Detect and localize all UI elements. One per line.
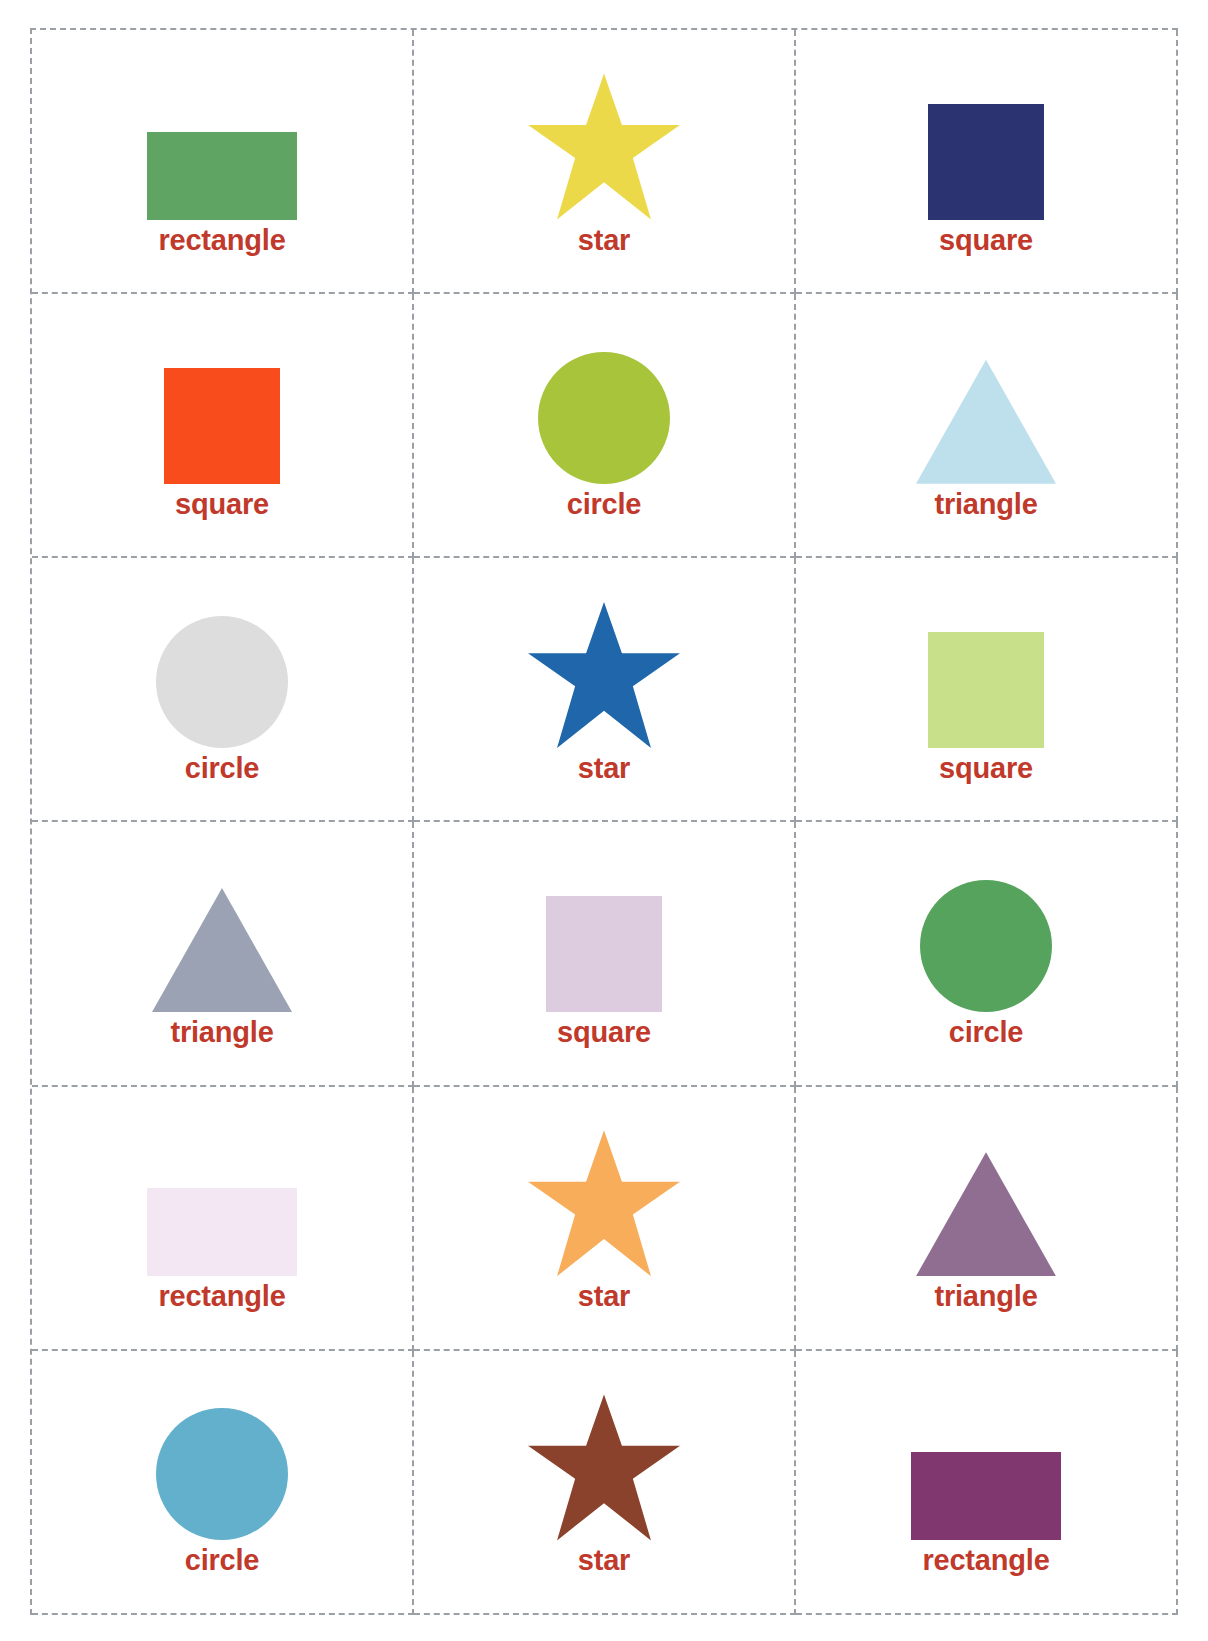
shape-label: star [578,754,630,783]
shape-label: triangle [170,1018,273,1047]
shape-slot [414,332,794,484]
shape-slot [32,596,412,748]
shape-label: star [578,226,630,255]
shape-slot [414,1124,794,1276]
flashcard[interactable]: square [796,30,1178,294]
flashcard[interactable]: star [414,1351,796,1615]
shape-label: square [939,226,1033,255]
shape-label: circle [567,490,642,519]
triangle-icon [916,1152,1056,1276]
circle-icon [156,1408,288,1540]
flashcard[interactable]: star [414,1087,796,1351]
shape-label: star [578,1282,630,1311]
flashcard[interactable]: circle [32,1351,414,1615]
star-icon [528,74,680,220]
rectangle-icon [911,1452,1061,1540]
shape-slot [796,1124,1176,1276]
shape-slot [32,860,412,1012]
shape-label: rectangle [158,226,285,255]
flashcard[interactable]: star [414,558,796,822]
circle-icon [538,352,670,484]
shape-label: circle [185,754,260,783]
square-icon [164,368,280,484]
square-icon [928,632,1044,748]
triangle-icon [916,360,1056,484]
rectangle-icon [147,1188,297,1276]
shape-label: square [175,490,269,519]
shape-slot [796,332,1176,484]
shape-slot [414,596,794,748]
shape-slot [32,68,412,220]
shape-label: rectangle [922,1546,1049,1575]
star-icon [528,1394,680,1540]
flashcard[interactable]: triangle [796,1087,1178,1351]
shape-label: circle [949,1018,1024,1047]
shape-label: triangle [934,1282,1037,1311]
shape-label: triangle [934,490,1037,519]
flashcard[interactable]: square [796,558,1178,822]
shape-slot [796,596,1176,748]
triangle-icon [152,888,292,1012]
flashcard[interactable]: triangle [796,294,1178,558]
flashcard[interactable]: circle [414,294,796,558]
flashcard[interactable]: rectangle [32,1087,414,1351]
shape-slot [32,1388,412,1540]
flashcard[interactable]: rectangle [32,30,414,294]
flashcard[interactable]: circle [796,822,1178,1086]
flashcard[interactable]: triangle [32,822,414,1086]
shape-slot [32,332,412,484]
flashcard[interactable]: circle [32,558,414,822]
shape-label: square [939,754,1033,783]
shape-slot [796,860,1176,1012]
shape-slot [414,860,794,1012]
flashcard[interactable]: star [414,30,796,294]
flashcard[interactable]: rectangle [796,1351,1178,1615]
circle-icon [920,880,1052,1012]
shape-slot [796,1388,1176,1540]
flashcard-sheet: rectanglestarsquaresquarecircletrianglec… [0,0,1208,1641]
square-icon [546,896,662,1012]
shape-label: star [578,1546,630,1575]
shape-slot [414,68,794,220]
flashcard[interactable]: square [414,822,796,1086]
shape-label: square [557,1018,651,1047]
shape-label: rectangle [158,1282,285,1311]
shape-slot [414,1388,794,1540]
shape-label: circle [185,1546,260,1575]
star-icon [528,602,680,748]
shape-slot [796,68,1176,220]
flashcard-grid: rectanglestarsquaresquarecircletrianglec… [30,28,1178,1615]
star-icon [528,1130,680,1276]
rectangle-icon [147,132,297,220]
square-icon [928,104,1044,220]
flashcard[interactable]: square [32,294,414,558]
shape-slot [32,1124,412,1276]
circle-icon [156,616,288,748]
